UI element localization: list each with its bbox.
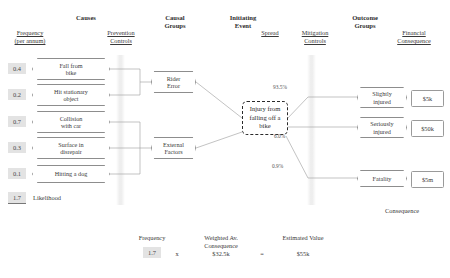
bowtie-diagram: Causes Causal Groups Initiating Event Ou… — [0, 0, 450, 278]
frequency-chip-1: 0.2 — [8, 89, 26, 100]
causal-group-hex-external-factors[interactable]: External Factors — [151, 137, 196, 159]
spread-percent-slightly-injured: 93.5% — [273, 84, 287, 90]
prevention-controls-band — [116, 55, 125, 205]
summary-estimated-label: Estimated Value — [269, 234, 337, 241]
frequency-chip-3: 0.3 — [8, 142, 26, 153]
likelihood-label: Likelihood — [33, 194, 61, 201]
header-initiating-event-line1: Initiating — [208, 14, 278, 22]
initiating-event-line3: bike — [259, 122, 270, 131]
cause-label-line2: object — [63, 95, 78, 102]
summary-frequency-value: 1.7 — [143, 247, 161, 258]
header-causes: Causes — [46, 14, 126, 22]
outcome-hex-fatality[interactable]: Fatality — [357, 170, 407, 187]
causal-group-label-line1: External — [163, 141, 184, 148]
summary-estimated-value: $55k — [269, 250, 337, 257]
cause-hex-hitting-a-dog[interactable]: Hitting a dog — [32, 165, 110, 183]
outcome-label-line2: injured — [373, 98, 391, 105]
summary-weighted-label-line1: Weighted Av. — [193, 234, 249, 241]
frequency-chip-4: 0.1 — [8, 168, 26, 179]
initiating-event-line2: falling off a — [249, 114, 280, 123]
subheader-frequency-line2: (per annum) — [4, 37, 56, 45]
subheader-financial-line2: Consequence — [383, 37, 445, 45]
outcome-label-line1: Slightly — [372, 90, 392, 97]
outcome-hex-seriously-injured[interactable]: Seriously injured — [357, 117, 407, 138]
financial-value-fatality: $5m — [411, 171, 444, 188]
subheader-spread: Spread — [253, 29, 287, 37]
header-causal-groups-line1: Causal — [145, 14, 205, 22]
outcome-label-line1: Fatality — [373, 175, 392, 182]
cause-label-line2: disrepair — [60, 148, 82, 155]
financial-value-slightly-injured: $5k — [411, 90, 444, 107]
outcome-label-line1: Seriously — [370, 120, 393, 127]
cause-label-line1: Hitting a dog — [55, 170, 88, 177]
cause-hex-fall-from-bike[interactable]: Fall from bike — [32, 58, 110, 80]
subheader-frequency-line1: Frequency — [4, 29, 56, 37]
subheader-mitigation-line2: Controls — [290, 37, 340, 45]
outcome-label-line2: injured — [373, 128, 391, 135]
initiating-event-line1: Injury from — [250, 105, 281, 114]
causal-group-label-line1: Rider — [167, 75, 181, 82]
summary-times-symbol: x — [172, 250, 182, 257]
financial-value-seriously-injured: $50k — [411, 120, 444, 137]
cause-label-line2: with car — [61, 122, 81, 129]
causal-group-label-line2: Factors — [164, 148, 182, 155]
summary-weighted-value: $32.5k — [193, 250, 249, 257]
summary-equals-symbol: = — [256, 250, 268, 257]
cause-hex-collision-with-car[interactable]: Collision with car — [32, 111, 110, 133]
summary-weighted-label-line2: Consequence — [193, 242, 249, 249]
subheader-prevention-line2: Controls — [96, 37, 146, 45]
spread-percent-fatality: 0.9% — [272, 163, 283, 169]
mitigation-controls-band — [307, 55, 316, 205]
frequency-chip-2: 0.7 — [8, 116, 26, 127]
subheader-mitigation-line1: Mitigation — [290, 29, 340, 37]
frequency-chip-0: 0.4 — [8, 63, 26, 74]
cause-hex-surface-in-disrepair[interactable]: Surface in disrepair — [32, 137, 110, 159]
cause-label-line1: Collision — [60, 115, 83, 122]
outcome-hex-slightly-injured[interactable]: Slightly injured — [357, 87, 407, 108]
cause-label-line1: Fall from — [59, 62, 82, 69]
subheader-prevention-line1: Prevention — [96, 29, 146, 37]
causal-group-hex-rider-error[interactable]: Rider Error — [151, 71, 196, 93]
likelihood-value-chip: 1.7 — [8, 192, 26, 204]
cause-label-line1: Surface in — [58, 141, 83, 148]
consequence-label: Consequence — [385, 207, 419, 214]
cause-label-line2: bike — [66, 69, 77, 76]
cause-label-line1: Hit stationary — [54, 88, 88, 95]
cause-hex-hit-stationary-object[interactable]: Hit stationary object — [32, 84, 110, 106]
causal-group-label-line2: Error — [167, 82, 180, 89]
spread-percent-seriously-injured: 6.0% — [274, 133, 285, 139]
subheader-financial-line1: Financial — [383, 29, 445, 37]
header-causal-groups-line2: Groups — [145, 22, 205, 30]
initiating-event-node[interactable]: Injury from falling off a bike — [242, 101, 288, 135]
header-outcome-groups-line1: Outcome — [330, 14, 400, 22]
summary-frequency-label: Frequency — [129, 234, 175, 241]
